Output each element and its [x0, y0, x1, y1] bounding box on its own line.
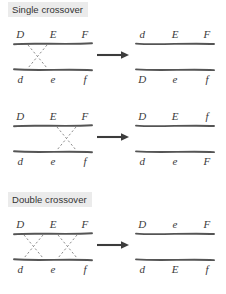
chromosome-pair-before-3: D E F d e f	[14, 218, 92, 276]
allele-row-bottom-before-3: d e f	[14, 263, 92, 275]
allele-row-top-after-1: d E F	[136, 28, 214, 40]
allele-label: D	[138, 110, 146, 122]
allele-label: d	[139, 155, 145, 167]
allele-label: E	[50, 110, 57, 122]
chromatid-strand-top	[14, 124, 92, 127]
allele-label: F	[204, 28, 211, 40]
allele-label: E	[50, 218, 57, 230]
allele-label: D	[138, 73, 146, 85]
yields-arrow-2	[97, 132, 131, 142]
allele-label: D	[16, 110, 24, 122]
allele-label: e	[173, 155, 178, 167]
allele-label: F	[82, 28, 89, 40]
chromatid-strand-bottom	[14, 150, 92, 153]
allele-row-top-before-2: D E F	[14, 110, 92, 122]
chromatid-strand-top	[14, 42, 92, 45]
allele-row-bottom-before-1: d e f	[14, 73, 92, 85]
yields-arrow-3	[97, 240, 131, 250]
allele-row-bottom-after-3: d E f	[136, 263, 214, 275]
allele-label: f	[205, 73, 208, 85]
allele-label: f	[205, 110, 208, 122]
yields-arrow-1	[97, 50, 131, 60]
allele-label: d	[139, 28, 145, 40]
allele-row-top-after-2: D E f	[136, 110, 214, 122]
chromatid-strand-bottom	[136, 258, 214, 261]
chromosome-pair-before-2: D E F d e f	[14, 110, 92, 168]
chromatid-strand-top	[14, 232, 92, 235]
allele-label: F	[82, 110, 89, 122]
allele-label: f	[83, 155, 86, 167]
allele-label: F	[82, 218, 89, 230]
allele-row-bottom-after-2: d e F	[136, 155, 214, 167]
allele-label: d	[17, 73, 23, 85]
allele-label: e	[173, 218, 178, 230]
chromatid-strand-bottom	[14, 258, 92, 261]
allele-row-top-before-3: D E F	[14, 218, 92, 230]
section-header-single-crossover: Single crossover	[8, 2, 88, 17]
allele-label: E	[172, 110, 179, 122]
allele-label: d	[17, 155, 23, 167]
allele-label: E	[172, 28, 179, 40]
chromatid-strand-top	[136, 232, 214, 235]
allele-label: D	[16, 218, 24, 230]
allele-label: E	[172, 263, 179, 275]
allele-row-bottom-before-2: d e f	[14, 155, 92, 167]
chromatid-strand-bottom	[136, 68, 214, 71]
chromosome-pair-after-2: D E f d e F	[136, 110, 214, 168]
chromosome-pair-before-1: D E F d e f	[14, 28, 92, 86]
chromosome-pair-after-3: D e F d E f	[136, 218, 214, 276]
allele-label: d	[139, 263, 145, 275]
allele-label: D	[138, 218, 146, 230]
allele-label: E	[50, 28, 57, 40]
chromosome-pair-after-1: d E F D e f	[136, 28, 214, 86]
allele-label: f	[83, 73, 86, 85]
allele-row-top-before-1: D E F	[14, 28, 92, 40]
chromatid-strand-bottom	[136, 150, 214, 153]
chromatid-strand-top	[136, 42, 214, 45]
allele-label: e	[51, 155, 56, 167]
allele-label: D	[16, 28, 24, 40]
allele-label: F	[204, 155, 211, 167]
section-header-double-crossover: Double crossover	[8, 192, 92, 207]
allele-label: F	[204, 218, 211, 230]
allele-label: f	[83, 263, 86, 275]
chromatid-strand-bottom	[14, 68, 92, 71]
allele-row-top-after-3: D e F	[136, 218, 214, 230]
allele-label: e	[51, 73, 56, 85]
allele-label: f	[205, 263, 208, 275]
allele-label: e	[51, 263, 56, 275]
allele-row-bottom-after-1: D e f	[136, 73, 214, 85]
allele-label: d	[17, 263, 23, 275]
chromatid-strand-top	[136, 124, 214, 127]
allele-label: e	[173, 73, 178, 85]
